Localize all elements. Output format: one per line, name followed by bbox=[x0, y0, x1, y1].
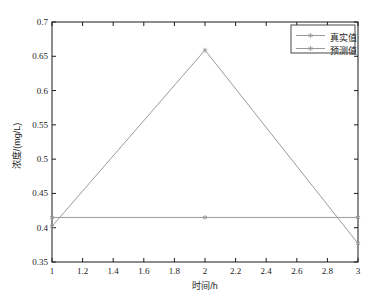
x-tick-label: 2.2 bbox=[230, 267, 241, 276]
y-axis-title: 浓度/(mg/L) bbox=[10, 123, 23, 170]
y-tick-label: 0.65 bbox=[20, 52, 48, 61]
y-tick-label: 0.7 bbox=[20, 18, 48, 27]
y-tick-label: 0.4 bbox=[20, 223, 48, 232]
plot-frame bbox=[52, 22, 358, 262]
chart-figure: 0.350.40.450.50.550.60.650.7 11.21.41.61… bbox=[0, 0, 374, 302]
x-axis-title: 时间/h bbox=[192, 279, 218, 292]
x-tick-label: 2.8 bbox=[322, 267, 333, 276]
y-tick-label: 0.45 bbox=[20, 189, 48, 198]
x-tick-label: 1.4 bbox=[108, 267, 119, 276]
y-tick-label: 0.6 bbox=[20, 86, 48, 95]
y-tick-label: 0.35 bbox=[20, 258, 48, 267]
x-tick-label: 2 bbox=[203, 267, 208, 276]
x-tick-label: 1.6 bbox=[138, 267, 149, 276]
y-tick-label: 0.55 bbox=[20, 120, 48, 129]
y-tick-label: 0.5 bbox=[20, 155, 48, 164]
legend-label-true-value: 真实值 bbox=[330, 31, 357, 44]
legend-label-predicted-value: 预测值 bbox=[330, 44, 357, 57]
x-tick-label: 3 bbox=[356, 267, 361, 276]
x-tick-label: 2.4 bbox=[261, 267, 272, 276]
x-tick-label: 1.8 bbox=[169, 267, 180, 276]
x-tick-label: 2.6 bbox=[291, 267, 302, 276]
line-chart-canvas bbox=[0, 0, 374, 302]
x-tick-label: 1.2 bbox=[77, 267, 88, 276]
x-tick-label: 1 bbox=[50, 267, 55, 276]
